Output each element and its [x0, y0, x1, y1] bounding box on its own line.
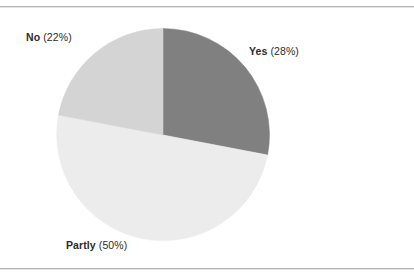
pie-label-yes-category: Yes	[249, 45, 267, 57]
figure-bottom-rule	[0, 268, 414, 269]
pie-label-no-percent: (22%)	[43, 31, 72, 43]
pie-label-no-category: No	[26, 31, 40, 43]
figure-container: No (22%) Yes (28%) Partly (50%)	[0, 0, 414, 279]
pie-label-partly: Partly (50%)	[66, 239, 127, 251]
figure-top-rule	[0, 6, 414, 7]
pie-label-no: No (22%)	[26, 31, 72, 43]
pie-chart	[56, 28, 270, 242]
pie-slice-group	[57, 29, 270, 241]
pie-label-partly-percent: (50%)	[99, 239, 128, 251]
pie-label-yes: Yes (28%)	[249, 45, 299, 57]
pie-label-yes-percent: (28%)	[270, 45, 299, 57]
pie-chart-svg	[56, 28, 270, 242]
pie-label-partly-category: Partly	[66, 239, 96, 251]
